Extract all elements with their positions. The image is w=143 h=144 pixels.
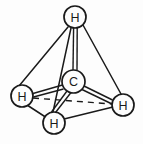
atom-label: H: [49, 117, 58, 131]
atom-h-top[interactable]: H: [64, 6, 86, 28]
molecule-canvas: H C H H H: [0, 0, 143, 144]
atom-h-bottom[interactable]: H: [43, 112, 65, 134]
atom-label: H: [70, 11, 79, 25]
bond-c-h-bottom: [52, 91, 72, 113]
atom-label: C: [69, 75, 78, 89]
atom-h-left[interactable]: H: [11, 85, 33, 107]
atom-h-right[interactable]: H: [112, 94, 134, 116]
atom-c-center[interactable]: C: [62, 70, 85, 93]
bond-c-h-right: [82, 86, 113, 104]
bond-c-h-top: [73, 28, 77, 70]
molecule-diagram: H C H H H: [0, 0, 143, 144]
edge-top-right: [83, 25, 121, 94]
atom-label: H: [118, 99, 127, 113]
atom-label: H: [17, 90, 26, 104]
edge-bottom-right: [64, 107, 113, 119]
edge-left-bottom: [27, 105, 47, 118]
